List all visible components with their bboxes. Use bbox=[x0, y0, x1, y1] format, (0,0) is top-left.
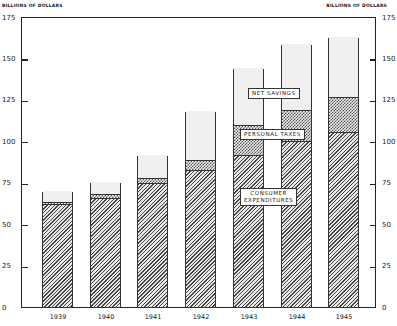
y-tick-label-left: 75 bbox=[2, 180, 16, 187]
segment-savings bbox=[138, 155, 167, 178]
segment-tax bbox=[43, 202, 72, 205]
bar-1940 bbox=[90, 183, 121, 308]
segment-consumer bbox=[329, 133, 358, 307]
bar-1942 bbox=[185, 112, 216, 308]
y-tick-label-right: 0 bbox=[382, 305, 386, 312]
bar-1941 bbox=[137, 156, 168, 308]
y-tick-label-left: 100 bbox=[2, 139, 16, 146]
segment-tax bbox=[329, 97, 358, 133]
y-tick-label-right: 175 bbox=[382, 15, 395, 22]
y-tick-right bbox=[370, 142, 376, 143]
x-tick-label: 1941 bbox=[133, 313, 173, 321]
segment-consumer bbox=[282, 142, 311, 307]
segment-consumer bbox=[91, 199, 120, 307]
y-tick-right bbox=[370, 184, 376, 185]
y-tick-left bbox=[22, 184, 28, 185]
y-tick-label-left: 175 bbox=[2, 15, 16, 22]
segment-savings bbox=[43, 191, 72, 202]
x-tick-label: 1943 bbox=[229, 313, 269, 321]
left-axis-unit: BILLIONS OF DOLLARS bbox=[2, 3, 63, 8]
right-axis-unit: BILLIONS OF DOLLARS bbox=[326, 3, 387, 8]
y-tick-label-right: 125 bbox=[382, 97, 395, 104]
y-tick-right bbox=[370, 101, 376, 102]
segment-consumer bbox=[138, 184, 167, 307]
y-tick-left bbox=[22, 142, 28, 143]
y-tick-label-right: 150 bbox=[382, 56, 395, 63]
segment-savings bbox=[329, 37, 358, 97]
legend-consumer-line2: EXPENDITURES bbox=[244, 197, 293, 204]
segment-consumer bbox=[186, 171, 215, 307]
segment-savings bbox=[91, 182, 120, 194]
bar-1939 bbox=[42, 192, 73, 308]
legend-consumer-expenditures: CONSUMER EXPENDITURES bbox=[240, 188, 297, 206]
x-tick-label: 1939 bbox=[38, 313, 78, 321]
y-tick-label-left: 50 bbox=[2, 222, 16, 229]
segment-tax bbox=[186, 160, 215, 171]
x-tick-label: 1942 bbox=[181, 313, 221, 321]
y-tick-label-left: 0 bbox=[2, 305, 16, 312]
y-tick-label-left: 150 bbox=[2, 56, 16, 63]
y-tick-label-right: 25 bbox=[382, 263, 391, 270]
segment-tax bbox=[138, 178, 167, 185]
y-tick-label-left: 125 bbox=[2, 97, 16, 104]
segment-consumer bbox=[234, 156, 263, 307]
y-tick-left bbox=[22, 101, 28, 102]
y-tick-left bbox=[22, 225, 28, 226]
y-tick-label-left: 25 bbox=[2, 263, 16, 270]
legend-consumer-line1: CONSUMER bbox=[244, 190, 293, 197]
x-tick-label: 1940 bbox=[86, 313, 126, 321]
x-tick-label: 1945 bbox=[324, 313, 364, 321]
y-tick-label-right: 100 bbox=[382, 139, 395, 146]
bar-1945 bbox=[328, 38, 359, 308]
y-tick-label-right: 50 bbox=[382, 222, 391, 229]
x-tick-label: 1944 bbox=[277, 313, 317, 321]
bar-1944 bbox=[281, 45, 312, 308]
segment-savings bbox=[186, 111, 215, 160]
legend-personal-taxes: PERSONAL TAXES bbox=[240, 129, 305, 140]
y-tick-left bbox=[22, 59, 28, 60]
y-tick-right bbox=[370, 59, 376, 60]
segment-tax bbox=[91, 194, 120, 199]
y-tick-label-right: 75 bbox=[382, 180, 391, 187]
y-tick-left bbox=[22, 267, 28, 268]
legend-net-savings: NET SAVINGS bbox=[248, 88, 300, 99]
y-tick-right bbox=[370, 267, 376, 268]
segment-consumer bbox=[43, 205, 72, 307]
y-tick-right bbox=[370, 225, 376, 226]
segment-savings bbox=[282, 44, 311, 110]
